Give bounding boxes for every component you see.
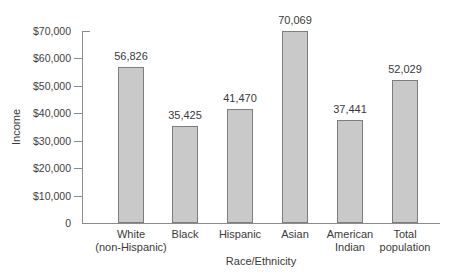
y-tick-label: $30,000: [0, 135, 71, 147]
x-axis-line: [82, 223, 440, 224]
bar-value-label: 56,826: [96, 50, 166, 63]
y-tick-label: $70,000: [0, 25, 71, 37]
bar-value-label: 41,470: [205, 92, 275, 105]
y-axis-line: [82, 31, 83, 223]
y-tick-mark: [82, 31, 90, 32]
bar-value-label: 70,069: [260, 14, 330, 27]
y-tick-mark: [74, 113, 82, 114]
y-tick-label: $40,000: [0, 107, 71, 119]
income-by-race-bar-chart: Income 0$10,000$20,000$30,000$40,000$50,…: [0, 0, 453, 276]
x-category-label-line: population: [359, 241, 451, 254]
bar-value-label: 37,441: [315, 103, 385, 116]
y-tick-mark: [74, 168, 82, 169]
y-tick-mark: [74, 86, 82, 87]
bar-value-label: 52,029: [370, 63, 440, 76]
bar: [227, 109, 253, 223]
y-tick-mark: [74, 141, 82, 142]
bar: [392, 80, 418, 223]
bar-value-label: 35,425: [150, 109, 220, 122]
x-category-label: Totalpopulation: [359, 228, 451, 254]
y-tick-label: $10,000: [0, 190, 71, 202]
y-tick-mark: [74, 196, 82, 197]
bar: [337, 120, 363, 223]
bar: [172, 126, 198, 223]
x-category-label-line: Total: [359, 228, 451, 241]
x-category-label-line: (non-Hispanic): [85, 241, 177, 254]
y-tick-label: $60,000: [0, 52, 71, 64]
bar: [282, 31, 308, 223]
x-axis-title: Race/Ethnicity: [226, 255, 296, 267]
y-tick-label: $50,000: [0, 80, 71, 92]
bar: [118, 67, 144, 223]
y-tick-mark: [74, 58, 82, 59]
y-tick-label: 0: [0, 217, 71, 229]
y-tick-label: $20,000: [0, 162, 71, 174]
